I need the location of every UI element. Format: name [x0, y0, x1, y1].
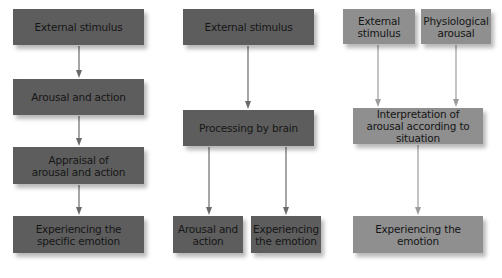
node-experiencing-specific-emotion: Experiencing the specific emotion: [13, 216, 144, 253]
node-processing-by-brain: Processing by brain: [183, 110, 314, 146]
node-physiological-arousal: Physiological arousal: [421, 9, 491, 44]
node-label: External stimulus: [35, 21, 123, 33]
node-appraisal: Appraisal of arousal and action: [13, 147, 144, 184]
node-external-stimulus-right: External stimulus: [343, 9, 415, 44]
node-label: Processing by brain: [199, 122, 298, 134]
node-label: External stimulus: [205, 21, 293, 33]
node-external-stimulus-left: External stimulus: [13, 9, 144, 45]
node-label: Arousal and action: [31, 91, 125, 103]
node-label: External stimulus: [347, 15, 411, 39]
node-label: Experiencing the emotion: [357, 223, 479, 247]
node-interpretation-of-arousal: Interpretation of arousal according to s…: [353, 108, 483, 144]
node-external-stimulus-middle: External stimulus: [183, 9, 314, 45]
node-label: Experiencing the specific emotion: [17, 223, 140, 247]
left-column-arrows: [76, 46, 82, 215]
node-label: Appraisal of arousal and action: [17, 154, 140, 178]
node-label: Interpretation of arousal according to s…: [357, 108, 479, 144]
node-arousal-and-action-middle: Arousal and action: [173, 216, 243, 253]
node-label: Arousal and action: [177, 223, 239, 247]
node-label: Experiencing the emotion: [253, 223, 319, 247]
node-label: Physiological arousal: [423, 15, 488, 39]
node-experiencing-emotion-right: Experiencing the emotion: [353, 216, 483, 253]
node-arousal-and-action-left: Arousal and action: [13, 79, 144, 115]
node-experiencing-emotion-middle: Experiencing the emotion: [251, 216, 321, 253]
